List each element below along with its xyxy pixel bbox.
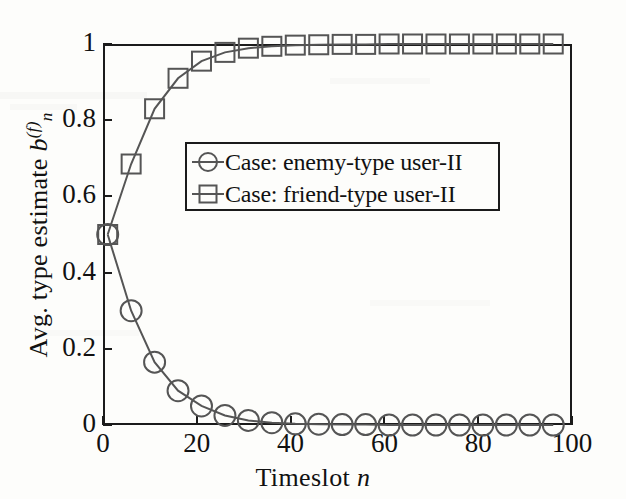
legend-label-enemy: Case: enemy-type user-II <box>225 150 462 174</box>
series-line-enemy <box>108 235 554 426</box>
legend-entry-enemy[interactable]: Case: enemy-type user-II <box>191 146 492 178</box>
legend-box[interactable]: Case: enemy-type user-II Case: friend-ty… <box>185 142 500 211</box>
y-axis-title-sup: (f) <box>23 121 42 138</box>
y-axis-title-var: b <box>24 138 53 151</box>
x-axis-title-var: n <box>357 463 370 492</box>
x-axis-title: Timeslot n <box>0 463 626 493</box>
plot-area <box>103 44 572 425</box>
legend-entry-friend[interactable]: Case: friend-type user-II <box>191 178 492 210</box>
figure-canvas: 00.20.40.60.81020406080100 Case: enemy-t… <box>0 0 626 499</box>
y-axis-title: Avg. type estimate b(f)n <box>23 45 57 425</box>
x-axis-tick-label: 0 <box>96 430 110 457</box>
data-series-svg <box>103 44 572 425</box>
y-axis-title-sub: n <box>37 112 56 121</box>
y-axis-title-text: Avg. type estimate <box>24 158 53 357</box>
square-marker-icon <box>191 179 225 209</box>
x-axis-title-text: Timeslot <box>255 463 350 492</box>
circle-marker-icon <box>191 147 225 177</box>
legend-label-friend: Case: friend-type user-II <box>225 182 455 206</box>
x-axis-tick-label: 20 <box>183 430 210 457</box>
